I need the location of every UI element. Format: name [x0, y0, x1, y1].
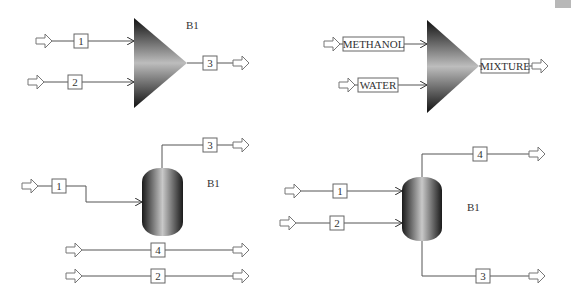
stream-water[interactable]: WATER [339, 78, 427, 92]
stream-label: 1 [56, 180, 62, 192]
stream-methanol[interactable]: METHANOL [324, 37, 427, 51]
product-arrow-icon [532, 59, 548, 73]
stream-label: 2 [72, 76, 78, 88]
stream-label: 3 [480, 270, 486, 282]
feed-arrow-icon [339, 78, 355, 92]
feed-arrow-icon [22, 179, 38, 193]
stream-label: 3 [207, 57, 213, 69]
stream-2[interactable]: 2 [28, 75, 134, 89]
product-arrow-icon [233, 269, 249, 283]
stream-2[interactable]: 2 [280, 216, 402, 230]
block-label: B1 [186, 19, 199, 31]
stream-4[interactable]: 4 [422, 147, 545, 177]
stream-4[interactable]: 4 [66, 243, 249, 257]
stream-1[interactable]: 1 [36, 34, 134, 48]
flash-drum-icon[interactable] [142, 168, 183, 236]
stream-label: 1 [337, 185, 343, 197]
flash-single-feed-diagram: 1 B1 3 4 2 [22, 138, 249, 283]
feed-arrow-icon [66, 243, 82, 257]
feed-arrow-icon [36, 34, 52, 48]
product-arrow-icon [529, 147, 545, 161]
feed-arrow-icon [28, 75, 44, 89]
feed-arrow-icon [280, 216, 296, 230]
stream-2[interactable]: 2 [66, 269, 249, 283]
stream-1[interactable]: 1 [22, 179, 142, 202]
mixer-block-icon[interactable] [427, 20, 479, 113]
stream-3[interactable]: 3 [422, 241, 545, 283]
stream-3[interactable]: 3 [187, 56, 249, 70]
stream-label: MIXTURE [480, 60, 530, 72]
product-arrow-icon [529, 269, 545, 283]
block-label: B1 [207, 177, 220, 189]
feed-arrow-icon [285, 184, 301, 198]
flash-drum-icon[interactable] [402, 177, 442, 241]
stream-3[interactable]: 3 [162, 138, 249, 168]
stream-mixture[interactable]: MIXTURE [479, 59, 548, 73]
stream-label: 4 [155, 244, 161, 256]
stream-label: 4 [477, 148, 483, 160]
mixer-numbered-diagram: 1 2 B1 3 [28, 18, 249, 108]
feed-arrow-icon [324, 37, 340, 51]
product-arrow-icon [233, 56, 249, 70]
product-arrow-icon [233, 138, 249, 152]
mixer-named-diagram: METHANOL WATER MIXTURE [324, 20, 548, 113]
stream-label: WATER [360, 79, 397, 91]
stream-1[interactable]: 1 [285, 184, 402, 198]
flowsheet-canvas: 1 2 B1 3 METHANOL [0, 0, 571, 307]
mixer-block-icon[interactable] [134, 18, 187, 108]
stream-label: 3 [207, 139, 213, 151]
flash-two-feeds-diagram: 1 2 B1 4 3 [280, 147, 545, 283]
stream-label: 2 [155, 270, 161, 282]
feed-arrow-icon [66, 269, 82, 283]
stream-label: 1 [78, 35, 84, 47]
stream-label: METHANOL [343, 38, 405, 50]
block-label: B1 [467, 201, 480, 213]
stream-label: 2 [334, 217, 340, 229]
product-arrow-icon [233, 243, 249, 257]
